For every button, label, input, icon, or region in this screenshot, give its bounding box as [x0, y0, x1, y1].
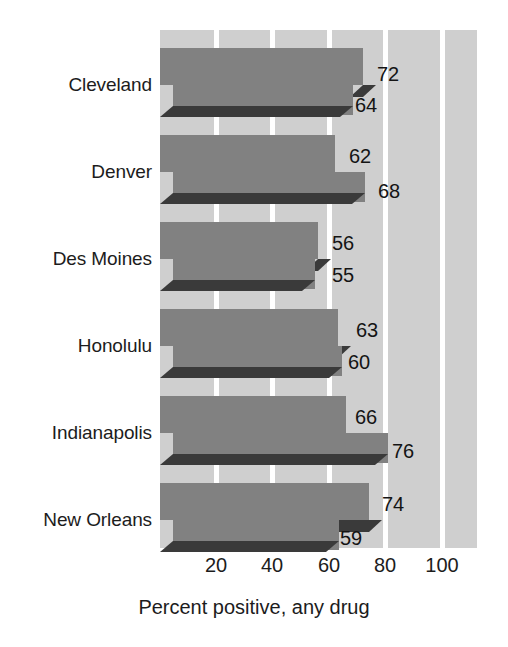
bar-shadow-indianapolis	[160, 454, 388, 465]
bar-shadow-denver	[160, 193, 365, 204]
bar-group-indianapolis	[160, 396, 477, 468]
value-honolulu-upper: 63	[356, 320, 378, 340]
value-neworleans-upper: 74	[382, 494, 404, 514]
tick-label-80: 80	[374, 554, 396, 576]
bar-group-honolulu	[160, 309, 477, 381]
tick-label-60: 60	[318, 554, 340, 576]
bar-indianapolis-upper[interactable]	[160, 396, 346, 433]
value-cleveland-upper: 72	[377, 64, 399, 84]
tick-label-20: 20	[205, 554, 227, 576]
value-honolulu-lower: 60	[348, 352, 370, 372]
cat-label-indianapolis: Indianapolis	[2, 423, 152, 442]
value-neworleans-lower: 59	[340, 528, 362, 548]
value-indianapolis-lower: 76	[392, 441, 414, 461]
bar-neworleans-upper[interactable]	[160, 483, 369, 520]
bar-group-denver	[160, 135, 477, 207]
value-cleveland-lower: 64	[355, 95, 377, 115]
bar-desmoines-upper[interactable]	[160, 222, 318, 259]
value-desmoines-lower: 55	[332, 265, 354, 285]
bar-group-neworleans	[160, 483, 477, 555]
tick-label-100: 100	[425, 554, 458, 576]
chart-figure: Cleveland Denver Des Moines Honolulu Ind…	[0, 0, 508, 647]
cat-label-denver: Denver	[2, 162, 152, 181]
bar-shadow-honolulu	[160, 367, 342, 378]
x-axis-ticks: 20 40 60 80 100	[0, 554, 508, 580]
value-indianapolis-upper: 66	[355, 407, 377, 427]
tick-label-40: 40	[261, 554, 283, 576]
cat-label-cleveland: Cleveland	[2, 75, 152, 94]
bar-group-cleveland	[160, 48, 477, 120]
bar-denver-upper[interactable]	[160, 135, 335, 172]
bar-shadow-desmoines	[160, 280, 315, 291]
category-axis: Cleveland Denver Des Moines Honolulu Ind…	[0, 30, 152, 548]
value-desmoines-upper: 56	[332, 233, 354, 253]
bar-shadow-neworleans	[160, 541, 339, 552]
bar-group-desmoines	[160, 222, 477, 294]
bar-shadow-cleveland	[160, 106, 353, 117]
x-axis-title: Percent positive, any drug	[0, 596, 508, 618]
cat-label-neworleans: New Orleans	[2, 510, 152, 529]
plot-area	[160, 30, 477, 548]
cat-label-desmoines: Des Moines	[2, 249, 152, 268]
value-denver-upper: 62	[349, 146, 371, 166]
bar-cleveland-upper[interactable]	[160, 48, 363, 85]
value-denver-lower: 68	[378, 181, 400, 201]
cat-label-honolulu: Honolulu	[2, 336, 152, 355]
bar-honolulu-upper[interactable]	[160, 309, 338, 346]
